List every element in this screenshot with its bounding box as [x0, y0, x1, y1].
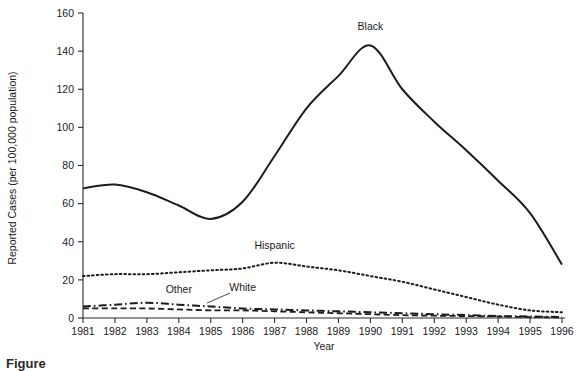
x-tick-label: 1984	[167, 325, 191, 337]
x-tick-label: 1983	[135, 325, 159, 337]
y-axis-ticks: 020406080100120140160	[56, 7, 83, 324]
x-tick-label: 1989	[327, 325, 351, 337]
x-tick-label: 1988	[295, 325, 319, 337]
y-tick-label: 100	[56, 121, 74, 133]
x-tick-label: 1985	[199, 325, 223, 337]
series-line-white	[83, 308, 562, 317]
x-tick-label: 1995	[518, 325, 542, 337]
y-tick-label: 40	[62, 236, 74, 248]
x-tick-label: 1996	[550, 325, 574, 337]
x-tick-label: 1981	[71, 325, 95, 337]
x-tick-label: 1992	[423, 325, 447, 337]
x-tick-label: 1993	[455, 325, 479, 337]
series-label-other: Other	[166, 283, 193, 295]
y-tick-label: 20	[62, 274, 74, 286]
x-tick-label: 1990	[359, 325, 383, 337]
series-line-black	[83, 45, 562, 264]
y-axis-title: Reported Cases (per 100,000 population)	[6, 71, 18, 264]
x-tick-label: 1986	[231, 325, 255, 337]
white-leader-line	[207, 293, 230, 303]
x-tick-label: 1982	[103, 325, 127, 337]
figure-caption: Figure	[6, 356, 46, 371]
series-line-hispanic	[83, 263, 562, 313]
y-tick-label: 80	[62, 159, 74, 171]
y-tick-label: 120	[56, 83, 74, 95]
x-tick-label: 1994	[486, 325, 510, 337]
x-axis-ticks: 1981198219831984198519861987198819891990…	[71, 318, 574, 337]
x-tick-label: 1987	[263, 325, 287, 337]
series-label-black: Black	[358, 20, 384, 32]
series-label-hispanic: Hispanic	[254, 239, 294, 251]
series-line-other	[83, 303, 562, 317]
y-tick-label: 140	[56, 45, 74, 57]
x-axis-title: Year	[313, 340, 335, 352]
y-tick-label: 60	[62, 197, 74, 209]
series-label-white: White	[229, 281, 256, 293]
series-paths	[83, 45, 562, 317]
x-tick-label: 1991	[391, 325, 415, 337]
y-tick-label: 0	[68, 312, 74, 324]
y-tick-label: 160	[56, 7, 74, 19]
